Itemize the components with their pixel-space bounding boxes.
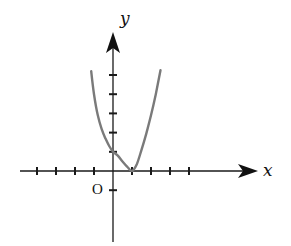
y-axis-label: y: [119, 8, 130, 28]
origin-label: O: [92, 181, 103, 197]
x-axis-label: x: [263, 160, 273, 180]
function-graph: x y O: [0, 0, 291, 246]
y-axis: [106, 32, 120, 242]
function-curve: [91, 70, 160, 171]
